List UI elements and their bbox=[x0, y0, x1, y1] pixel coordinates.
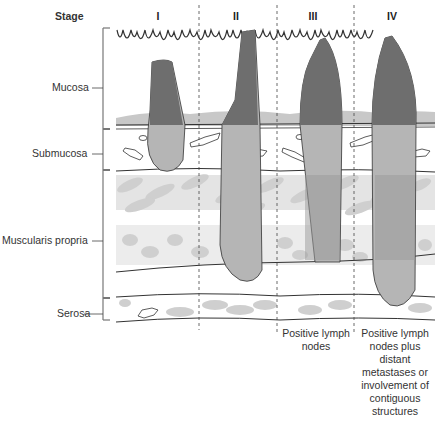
tumor-stage-I bbox=[148, 60, 186, 171]
stage-IV-note: Positive lymph nodes plus distant metast… bbox=[358, 327, 432, 418]
tumor-stage-IV bbox=[372, 36, 416, 306]
stage-IV-label: IV bbox=[382, 10, 402, 22]
stage-header-label: Stage bbox=[55, 10, 84, 22]
layer-bracket bbox=[103, 28, 110, 320]
serosa-fat-lobules bbox=[119, 299, 432, 317]
stage-II-label: II bbox=[228, 10, 244, 22]
layer-label-serosa: Serosa bbox=[57, 307, 90, 319]
stage-I-label: I bbox=[150, 10, 166, 22]
stage-III-label: III bbox=[303, 10, 323, 22]
tumor-stage-III bbox=[300, 38, 342, 262]
layer-label-mucosa: Mucosa bbox=[52, 81, 89, 93]
layer-label-submucosa: Submucosa bbox=[32, 147, 87, 159]
tumor-stage-II bbox=[220, 30, 262, 281]
stage-III-note: Positive lymph nodes bbox=[280, 327, 352, 353]
layer-label-muscularis-propria: Muscularis propria bbox=[2, 234, 88, 246]
